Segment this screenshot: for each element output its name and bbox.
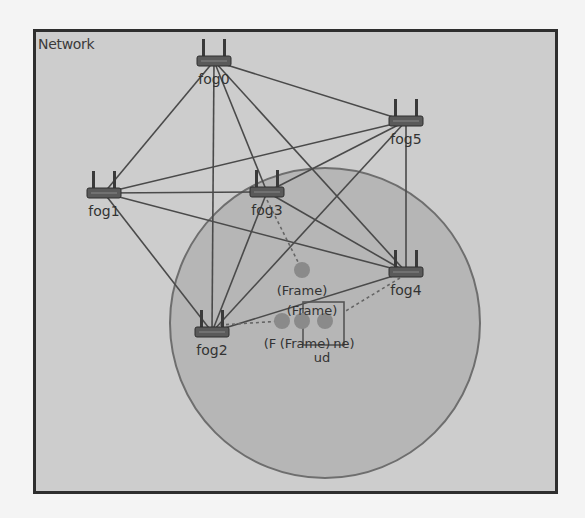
- network-graph: (Frame)(Frame)(F(Frame)ne)ud fog0fog1fog…: [0, 0, 585, 518]
- router-label: fog0: [198, 71, 229, 87]
- router-fog1[interactable]: fog1: [87, 171, 121, 219]
- mobile-node-label: (Frame): [280, 336, 331, 351]
- ud-label: ud: [314, 350, 331, 365]
- router-label: fog3: [251, 202, 282, 218]
- router-label: fog5: [390, 131, 421, 147]
- link-fog1-fog3: [104, 192, 267, 193]
- mobile-node-label: (Frame): [287, 303, 338, 318]
- wifi-router-icon: [87, 171, 121, 198]
- router-fog5[interactable]: fog5: [389, 99, 423, 147]
- wifi-router-icon: [197, 39, 231, 66]
- mobile-node-label: (Frame): [277, 283, 328, 298]
- link-fog0-fog5: [214, 61, 406, 121]
- router-label: fog2: [196, 342, 227, 358]
- router-label: fog4: [390, 282, 421, 298]
- panel-title: Network: [38, 36, 94, 52]
- router-fog0[interactable]: fog0: [197, 39, 231, 87]
- mobile-node-label: ne): [333, 336, 354, 351]
- router-label: fog1: [88, 203, 119, 219]
- mobile-node-icon[interactable]: [294, 262, 310, 278]
- wifi-router-icon: [389, 99, 423, 126]
- mobile-node-label: (F: [264, 336, 277, 351]
- router-fog3[interactable]: fog3: [250, 170, 284, 218]
- network-canvas: (Frame)(Frame)(F(Frame)ne)ud fog0fog1fog…: [0, 0, 585, 518]
